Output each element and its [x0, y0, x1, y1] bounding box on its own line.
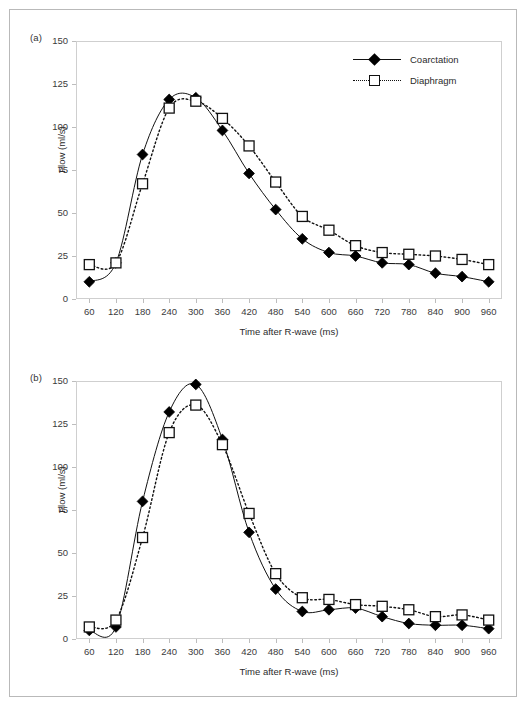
legend-key-open-square-icon: [351, 74, 403, 88]
y-tick-mark: [72, 553, 76, 554]
y-tick-label: 0: [28, 634, 68, 644]
y-tick-label: 75: [28, 165, 68, 175]
data-point-open-square-icon: [111, 258, 121, 268]
x-tick-mark: [302, 299, 303, 303]
y-tick-mark: [72, 639, 76, 640]
y-tick-mark: [72, 170, 76, 171]
legend-item-coarctation: Coarctation: [351, 49, 499, 70]
data-point-open-square-icon: [217, 113, 227, 123]
y-tick-label: 100: [28, 462, 68, 472]
data-point-open-square-icon: [457, 254, 467, 264]
figure-outer-frame: (a) Flow (ml/s) Time after R-wave (ms) 1…: [9, 9, 517, 697]
data-point-open-square-icon: [404, 249, 414, 259]
y-tick-label: 150: [28, 36, 68, 46]
x-tick-mark: [489, 299, 490, 303]
data-point-open-square-icon: [430, 251, 440, 261]
x-tick-mark: [196, 299, 197, 303]
series-line-diaphragm: [89, 99, 488, 269]
data-point-filled-diamond-icon: [403, 259, 414, 270]
data-point-filled-diamond-icon: [350, 251, 361, 262]
x-tick-mark: [382, 299, 383, 303]
x-tick-mark: [329, 639, 330, 643]
y-tick-label: 50: [28, 548, 68, 558]
x-tick-mark: [169, 299, 170, 303]
x-axis-label-b: Time after R-wave (ms): [76, 666, 502, 677]
data-point-open-square-icon: [271, 177, 281, 187]
y-tick-label: 100: [28, 122, 68, 132]
data-point-open-square-icon: [430, 612, 440, 622]
data-point-filled-diamond-icon: [217, 125, 228, 136]
data-point-filled-diamond-icon: [270, 204, 281, 215]
y-tick-label: 125: [28, 79, 68, 89]
data-point-open-square-icon: [297, 593, 307, 603]
y-tick-mark: [72, 424, 76, 425]
data-point-open-square-icon: [484, 615, 494, 625]
x-tick-mark: [356, 639, 357, 643]
data-point-open-square-icon: [404, 605, 414, 615]
x-tick-mark: [489, 639, 490, 643]
y-tick-label: 50: [28, 208, 68, 218]
chart-legend: Coarctation Diaphragm: [351, 47, 499, 93]
y-tick-label: 125: [28, 419, 68, 429]
data-point-open-square-icon: [111, 615, 121, 625]
data-point-filled-diamond-icon: [324, 247, 335, 258]
data-point-filled-diamond-icon: [244, 527, 255, 538]
data-point-filled-diamond-icon: [430, 268, 441, 279]
y-tick-mark: [72, 213, 76, 214]
data-point-open-square-icon: [484, 260, 494, 270]
data-point-filled-diamond-icon: [137, 496, 148, 507]
x-tick-mark: [382, 639, 383, 643]
data-point-filled-diamond-icon: [483, 276, 494, 287]
x-tick-mark: [276, 299, 277, 303]
x-tick-mark: [249, 639, 250, 643]
x-tick-mark: [222, 299, 223, 303]
chart-panel-a: (a) Flow (ml/s) Time after R-wave (ms) 1…: [10, 14, 516, 348]
plot-svg-b: [76, 381, 502, 639]
x-tick-mark: [143, 299, 144, 303]
x-tick-mark: [356, 299, 357, 303]
x-tick-mark: [89, 299, 90, 303]
chart-panel-b: (b) Flow (ml/s) Time after R-wave (ms) 1…: [10, 354, 516, 688]
data-point-filled-diamond-icon: [324, 604, 335, 615]
y-tick-mark: [72, 299, 76, 300]
legend-item-diaphragm: Diaphragm: [351, 70, 499, 91]
data-point-open-square-icon: [297, 211, 307, 221]
x-tick-mark: [222, 639, 223, 643]
data-point-open-square-icon: [324, 225, 334, 235]
data-point-open-square-icon: [217, 440, 227, 450]
data-point-open-square-icon: [191, 96, 201, 106]
x-tick-mark: [276, 639, 277, 643]
x-tick-mark: [169, 639, 170, 643]
data-point-filled-diamond-icon: [270, 584, 281, 595]
data-point-filled-diamond-icon: [377, 611, 388, 622]
y-tick-mark: [72, 381, 76, 382]
x-tick-label: 960: [472, 646, 506, 657]
series-line-diaphragm: [89, 405, 488, 629]
data-point-open-square-icon: [351, 600, 361, 610]
data-point-open-square-icon: [244, 141, 254, 151]
y-tick-mark: [72, 127, 76, 128]
data-point-open-square-icon: [164, 103, 174, 113]
data-point-open-square-icon: [244, 508, 254, 518]
y-tick-mark: [72, 467, 76, 468]
y-tick-label: 25: [28, 591, 68, 601]
data-point-open-square-icon: [164, 428, 174, 438]
y-tick-label: 150: [28, 376, 68, 386]
data-point-filled-diamond-icon: [457, 271, 468, 282]
data-point-open-square-icon: [271, 569, 281, 579]
data-point-filled-diamond-icon: [164, 407, 175, 418]
x-tick-mark: [302, 639, 303, 643]
y-tick-mark: [72, 510, 76, 511]
y-tick-label: 25: [28, 251, 68, 261]
x-tick-mark: [462, 639, 463, 643]
x-tick-mark: [409, 299, 410, 303]
data-point-filled-diamond-icon: [457, 620, 468, 631]
x-tick-mark: [462, 299, 463, 303]
data-point-open-square-icon: [351, 241, 361, 251]
y-tick-label: 75: [28, 505, 68, 515]
data-point-filled-diamond-icon: [84, 276, 95, 287]
y-axis-label-b: Flow (ml/s): [56, 430, 67, 550]
x-tick-mark: [435, 299, 436, 303]
legend-label-diaphragm: Diaphragm: [403, 75, 456, 86]
data-point-open-square-icon: [457, 610, 467, 620]
